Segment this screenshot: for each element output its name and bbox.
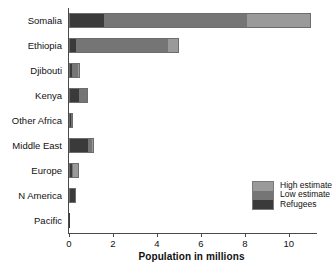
stacked-bar [69,188,76,203]
bar-segment-low-estimate [71,113,73,128]
bar-segment-refugees [69,13,104,28]
category-label: Europe [31,158,62,183]
bar-segment-high-estimate [73,163,78,178]
x-tick-label: 2 [110,238,115,249]
bar-segment-high-estimate [87,88,88,103]
legend-swatch [253,200,273,209]
bar-segment-high-estimate [92,138,94,153]
bar-chart: SomaliaEthiopiaDjiboutiKenyaOther Africa… [0,0,335,269]
x-tick-label: 10 [284,238,295,249]
bar-row: Middle East [0,133,335,158]
bar-segment-high-estimate [247,13,311,28]
category-label: Pacific [34,208,62,233]
bar-row: Somalia [0,8,335,33]
chart-legend: High estimateLow estimateRefugees [252,181,332,210]
category-label: Djibouti [30,58,62,83]
bar-segment-low-estimate [76,38,168,53]
category-label: N America [18,183,62,208]
category-label: Middle East [12,133,62,158]
stacked-bar [69,13,311,28]
stacked-bar [69,138,94,153]
legend-swatch [253,182,273,191]
stacked-bar [69,38,179,53]
x-tick-label: 0 [66,238,71,249]
x-tick [245,233,246,237]
bar-row: Ethiopia [0,33,335,58]
category-label: Other Africa [12,108,62,133]
bar-segment-low-estimate [104,13,247,28]
bar-segment-high-estimate [168,38,179,53]
x-tick [157,233,158,237]
x-tick-label: 6 [198,238,203,249]
x-tick [201,233,202,237]
x-axis-line [69,233,317,234]
bar-segment-high-estimate [78,63,80,78]
category-label: Ethiopia [28,33,62,58]
bar-row: Other Africa [0,108,335,133]
legend-label: Refugees [280,200,332,209]
legend-swatch [253,191,273,200]
legend-swatch-group [252,181,274,210]
bar-segment-refugees [69,188,76,203]
x-tick [69,233,70,237]
bar-segment-refugees [69,38,76,53]
legend-label-group: High estimateLow estimateRefugees [280,181,332,209]
stacked-bar [69,88,88,103]
bar-segment-refugees [69,88,79,103]
x-axis-title: Population in millions [0,251,335,262]
x-tick-label: 8 [242,238,247,249]
stacked-bar [69,113,73,128]
bar-row: Djibouti [0,58,335,83]
bar-segment-refugees [69,138,88,153]
bar-row: Kenya [0,83,335,108]
x-tick [289,233,290,237]
x-tick [113,233,114,237]
x-tick-label: 4 [154,238,159,249]
category-label: Somalia [28,8,62,33]
stacked-bar [69,163,79,178]
bar-row: Pacific [0,208,335,233]
category-label: Kenya [35,83,62,108]
stacked-bar [69,63,80,78]
bar-segment-low-estimate [79,88,87,103]
